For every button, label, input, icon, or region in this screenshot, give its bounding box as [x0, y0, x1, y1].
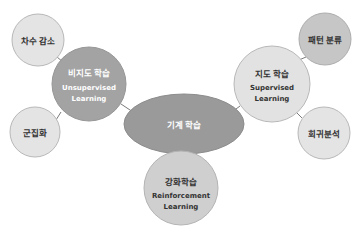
unsupervised-node: 비지도 학습 Unsupervised Learning: [52, 47, 126, 121]
leaf-regression: 회귀분석: [298, 107, 350, 159]
leaf-pattern-classification-label: 패턴 분류: [308, 35, 343, 45]
reinforcement-label-ko: 강화학습: [165, 177, 197, 187]
center-node: 기계 학습: [124, 94, 244, 154]
leaf-dimension-reduction: 차수 감소: [12, 14, 64, 66]
leaf-clustering-label: 군집화: [23, 128, 47, 138]
leaf-dimension-reduction-label: 차수 감소: [21, 36, 56, 46]
reinforcement-node-shape: [144, 151, 218, 225]
leaf-clustering: 군집화: [10, 107, 60, 157]
reinforcement-label-en-1: Reinforcement: [152, 192, 211, 200]
center-node-label: 기계 학습: [167, 120, 202, 130]
leaf-pattern-classification: 패턴 분류: [299, 13, 351, 65]
unsupervised-label-ko: 비지도 학습: [68, 68, 111, 78]
supervised-node: 지도 학습 Supervised Learning: [234, 46, 310, 122]
reinforcement-node: 강화학습 Reinforcement Learning: [144, 151, 218, 225]
machine-learning-mindmap: 기계 학습 비지도 학습 Unsupervised Learning 지도 학습…: [0, 0, 362, 238]
unsupervised-label-en-2: Learning: [72, 95, 107, 103]
supervised-label-en-1: Supervised: [250, 84, 294, 92]
supervised-label-ko: 지도 학습: [255, 69, 290, 79]
unsupervised-label-en-1: Unsupervised: [62, 84, 116, 92]
leaf-regression-label: 회귀분석: [308, 129, 340, 139]
supervised-label-en-2: Learning: [255, 95, 290, 103]
reinforcement-label-en-2: Learning: [164, 203, 199, 211]
